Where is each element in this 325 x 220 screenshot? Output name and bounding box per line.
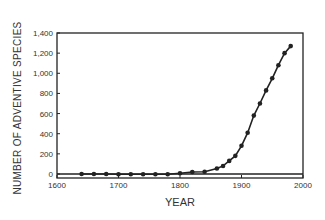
data-point-marker [264,88,269,93]
data-point-marker [270,76,275,81]
y-tick-label: 1,000 [33,69,54,78]
data-point-marker [245,130,250,135]
y-tick-label: 200 [40,150,54,159]
data-point-marker [239,144,244,149]
data-point-marker [79,172,84,177]
data-point-marker [288,44,293,49]
y-tick-label: 0 [49,170,54,179]
x-axis-label: YEAR [165,196,195,208]
x-tick-label: 1700 [110,181,128,190]
data-point-marker [141,172,146,177]
data-point-marker [129,172,134,177]
data-series [79,44,293,177]
x-tick-label: 1800 [171,181,189,190]
y-axis-label: NUMBER OF ADVENTIVE SPECIES [12,21,23,194]
data-point-marker [227,159,232,164]
x-tick-label: 1600 [48,181,66,190]
data-point-marker [276,63,281,68]
data-point-marker [178,171,183,176]
y-tick-label: 800 [40,89,54,98]
data-point-marker [215,166,220,171]
data-point-marker [233,154,238,159]
data-point-marker [153,172,158,177]
plot-frame [57,33,303,178]
data-point-marker [202,169,207,174]
y-tick-label: 400 [40,130,54,139]
line-chart: 02004006008001,0001,2001,400 16001700180… [0,0,325,220]
data-point-marker [258,101,263,106]
data-point-marker [92,172,97,177]
y-axis-ticks: 02004006008001,0001,2001,400 [33,29,60,179]
y-tick-label: 1,200 [33,49,54,58]
data-point-marker [282,51,287,56]
data-point-marker [104,172,109,177]
x-tick-label: 2000 [294,181,312,190]
data-point-marker [221,164,226,169]
x-axis-ticks: 16001700180019002000 [48,175,312,190]
data-point-marker [116,172,121,177]
data-point-marker [252,113,257,118]
series-line [82,46,291,174]
y-tick-label: 1,400 [33,29,54,38]
y-tick-label: 600 [40,110,54,119]
data-point-marker [165,172,170,177]
x-tick-label: 1900 [233,181,251,190]
data-point-marker [190,170,195,175]
